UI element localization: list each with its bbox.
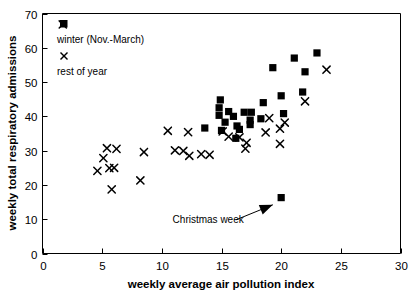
y-tick-label-60: 60 [25,43,38,55]
data-point-square [221,119,228,126]
data-point-square [217,96,224,103]
annotation-label-christmas-week: Christmas week [173,214,245,225]
y-tick-label-20: 20 [25,180,38,192]
data-point-square [269,64,276,71]
data-point-square [230,113,237,120]
scatter-plot-svg: 051015202530 010203040506070 winter (Nov… [0,0,419,300]
legend-marker-winter-square-icon [60,20,68,28]
data-point-square [260,99,267,106]
data-point-square [216,104,223,111]
x-tick-label-25: 25 [335,260,348,272]
data-point-square [278,92,285,99]
data-point-square [241,109,248,116]
y-axis-title: weekly total respiratory admissions [6,36,18,232]
y-tick-label-70: 70 [25,9,38,21]
data-point-square [301,68,308,75]
x-axis-title: weekly average air pollution index [127,278,315,290]
x-tick-label-20: 20 [275,260,288,272]
x-tick-label-0: 0 [40,260,46,272]
y-tick-label-40: 40 [25,111,38,123]
legend-label-winter: winter (Nov.-March) [56,34,144,45]
data-point-square [313,49,320,56]
chart-figure: 051015202530 010203040506070 winter (Nov… [0,0,419,300]
data-point-square [216,112,223,119]
data-point-square [236,126,243,133]
y-tick-label-10: 10 [25,214,38,226]
y-tick-label-30: 30 [25,146,38,158]
data-point-square [247,121,254,128]
data-point-square [291,54,298,61]
x-tick-label-5: 5 [99,260,105,272]
data-point-square [278,194,285,201]
y-tick-label-0: 0 [31,249,37,261]
data-point-square [257,115,264,122]
y-tick-label-50: 50 [25,77,38,89]
chart-background [0,0,419,300]
x-tick-label-30: 30 [395,260,408,272]
data-point-square [299,88,306,95]
data-point-square [201,124,208,131]
data-point-square [248,109,255,116]
x-tick-label-10: 10 [156,260,169,272]
x-tick-label-15: 15 [216,260,229,272]
legend-label-rest-of-year: rest of year [57,66,108,77]
data-point-square [280,110,287,117]
